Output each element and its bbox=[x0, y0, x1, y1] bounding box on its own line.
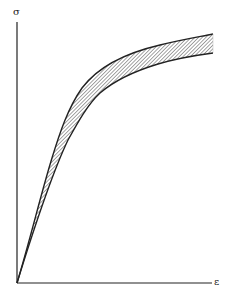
lower-curve bbox=[17, 53, 213, 283]
y-axis-label: σ bbox=[13, 7, 20, 17]
hatched-band bbox=[17, 34, 213, 283]
stress-strain-diagram bbox=[0, 0, 235, 297]
x-axis-label: ε bbox=[214, 277, 219, 287]
